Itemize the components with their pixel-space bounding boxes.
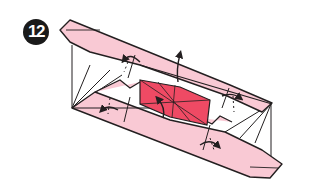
folding-illustration [0, 0, 312, 194]
origami-diagram: 12 [0, 0, 312, 194]
center-notch-left [95, 80, 140, 92]
